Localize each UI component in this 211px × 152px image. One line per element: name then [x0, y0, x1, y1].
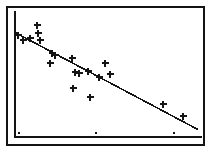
x-axis-tick-dot [173, 132, 175, 134]
plot-background [0, 0, 211, 152]
scatter-plot-figure [0, 0, 211, 152]
plot-canvas [0, 0, 211, 152]
x-axis-tick-dot [95, 132, 97, 134]
x-axis-tick-dot [18, 132, 20, 134]
